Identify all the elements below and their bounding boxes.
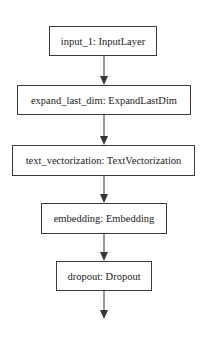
node-label: embedding: Embedding: [54, 213, 155, 224]
node-label: expand_last_dim: ExpandLastDim: [31, 95, 177, 106]
arrowhead-icon: [100, 194, 108, 203]
node-text-vectorization: text_vectorization: TextVectorization: [12, 145, 195, 176]
arrowhead-icon: [100, 76, 108, 85]
arrowhead-icon: [100, 136, 108, 145]
node-embedding: embedding: Embedding: [41, 203, 167, 234]
arrowhead-icon: [100, 252, 108, 261]
node-input-1: input_1: InputLayer: [49, 26, 157, 56]
edge-textvec-to-embedding: [100, 175, 108, 203]
edge-input-to-expand: [100, 55, 108, 85]
edge-embedding-to-dropout: [100, 233, 108, 261]
arrowhead-icon: [100, 310, 108, 319]
node-dropout: dropout: Dropout: [56, 261, 152, 291]
node-label: dropout: Dropout: [67, 271, 140, 282]
node-expand-last-dim: expand_last_dim: ExpandLastDim: [17, 85, 191, 115]
node-label: text_vectorization: TextVectorization: [26, 155, 182, 166]
edge-dropout-out: [100, 290, 108, 319]
edge-expand-to-textvec: [100, 114, 108, 145]
node-label: input_1: InputLayer: [61, 36, 145, 47]
